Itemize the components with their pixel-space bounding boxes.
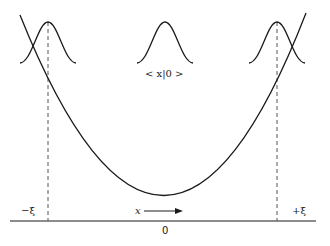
left-turning-point-label: −ξ (21, 205, 35, 216)
origin-label: 0 (162, 225, 168, 236)
right-gaussian-wavepacket (249, 22, 305, 63)
left-gaussian-wavepacket (20, 22, 76, 63)
potential-parabola (20, 13, 306, 196)
center-gaussian-wavepacket (137, 22, 193, 63)
right-turning-point-label: +ξ (292, 205, 306, 216)
potential-diagram: < x|0 > −ξ +ξ x 0 (0, 0, 330, 246)
axis-variable-label: x (135, 205, 141, 216)
center-state-label: < x|0 > (145, 68, 184, 80)
direction-arrow-icon (175, 208, 183, 214)
